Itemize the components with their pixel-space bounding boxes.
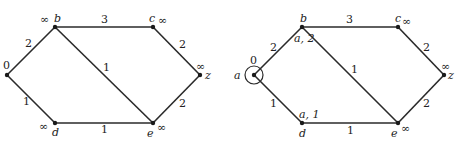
edge-c-z: [153, 27, 200, 75]
edge-weight: 1: [351, 63, 358, 76]
edge-weight: 3: [101, 13, 108, 26]
edge-a-d: [7, 75, 55, 123]
node-label: d: [52, 126, 59, 139]
node-label: d: [299, 127, 306, 140]
node-label: e: [391, 127, 398, 140]
edge-weight: 1: [101, 123, 108, 136]
edge-weight: 1: [103, 61, 110, 74]
node-distance: ∞: [441, 60, 450, 73]
node-c: [151, 25, 155, 29]
node-b: [53, 25, 57, 29]
edge-b-e: [55, 27, 153, 123]
node-b: [300, 25, 304, 29]
edge-weight: 2: [179, 38, 186, 51]
edge-a-d: [254, 75, 302, 123]
node-distance: a, 1: [299, 108, 320, 121]
edge-weight: 1: [270, 97, 277, 110]
node-d: [300, 121, 304, 125]
graph-after-step-1: 2321121a0ba, 2c∞z∞da, 1e∞: [234, 12, 454, 140]
edge-weight: 3: [346, 13, 353, 26]
edge-weight: 2: [25, 37, 32, 50]
node-distance: ∞: [196, 60, 205, 73]
edge-weight: 2: [270, 41, 277, 54]
node-label: b: [300, 12, 307, 25]
edge-e-z: [398, 75, 444, 123]
node-label: e: [147, 127, 154, 140]
node-e: [396, 121, 400, 125]
node-c: [396, 25, 400, 29]
edge-c-z: [398, 27, 444, 75]
node-distance: ∞: [401, 122, 410, 135]
edge-e-z: [153, 75, 200, 123]
node-z: [442, 73, 446, 77]
node-distance: 0: [3, 59, 10, 72]
node-distance: ∞: [402, 15, 411, 28]
edge-weight: 2: [423, 41, 430, 54]
node-label: c: [149, 12, 155, 25]
edge-weight: 2: [179, 97, 186, 110]
dijkstra-diagram: 23211210b∞c∞z∞d∞e∞ 2321121a0ba, 2c∞z∞da,…: [0, 0, 455, 148]
node-d: [53, 121, 57, 125]
node-label: a: [234, 69, 241, 82]
node-e: [151, 121, 155, 125]
node-label: c: [395, 12, 401, 25]
node-distance: a, 2: [294, 32, 315, 45]
node-a: [5, 73, 9, 77]
node-distance: ∞: [158, 14, 167, 27]
edge-weight: 1: [347, 124, 354, 137]
edge-weight: 2: [423, 97, 430, 110]
node-distance: 0: [250, 54, 257, 67]
node-label: b: [54, 12, 61, 25]
node-z: [198, 73, 202, 77]
node-a: [252, 73, 256, 77]
edge-a-b: [7, 27, 55, 75]
node-distance: ∞: [157, 121, 166, 134]
node-distance: ∞: [40, 13, 49, 26]
edge-weight: 1: [23, 95, 30, 108]
node-distance: ∞: [39, 120, 48, 133]
graph-initial: 23211210b∞c∞z∞d∞e∞: [3, 12, 211, 140]
